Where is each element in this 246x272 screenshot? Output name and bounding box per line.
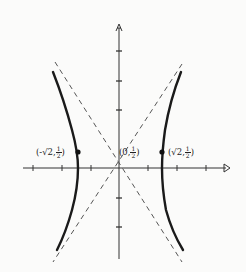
vertex-right-label: (√2,12) bbox=[168, 146, 194, 159]
center-label: (0,12) bbox=[119, 146, 140, 159]
vertex-left-dot bbox=[75, 149, 80, 154]
right-branch bbox=[162, 72, 183, 250]
hyperbola-diagram bbox=[0, 0, 246, 272]
vertex-right-dot bbox=[159, 149, 164, 154]
y-axis bbox=[116, 24, 122, 259]
x-axis bbox=[23, 164, 230, 172]
left-branch bbox=[53, 72, 78, 250]
vertex-left-label: (-√2,12) bbox=[36, 146, 65, 159]
